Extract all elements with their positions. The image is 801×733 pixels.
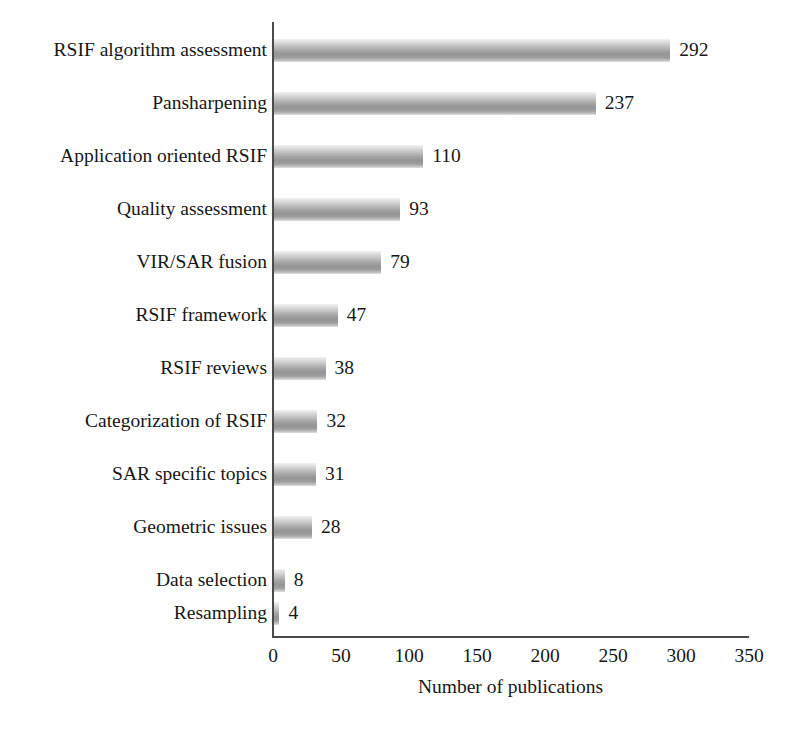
value-label: 8	[294, 565, 304, 595]
bar-row: Quality assessment 93	[0, 198, 801, 221]
category-label: SAR specific topics	[7, 459, 267, 489]
x-tick-label: 150	[447, 642, 507, 670]
bar-row: RSIF algorithm assessment 292	[0, 39, 801, 62]
value-label: 93	[409, 194, 429, 224]
bar-row: Application oriented RSIF 110	[0, 145, 801, 168]
bar	[274, 463, 316, 486]
category-label: Quality assessment	[7, 194, 267, 224]
category-label: Geometric issues	[7, 512, 267, 542]
bar-row: Categorization of RSIF 32	[0, 410, 801, 433]
x-tick-label: 300	[651, 642, 711, 670]
x-tick-label: 200	[515, 642, 575, 670]
x-tick-label: 250	[583, 642, 643, 670]
value-label: 79	[390, 247, 410, 277]
bar	[274, 516, 312, 539]
category-label: Pansharpening	[7, 88, 267, 118]
bar-row: Resampling 4	[0, 602, 801, 625]
value-label: 28	[321, 512, 341, 542]
category-label: VIR/SAR fusion	[7, 247, 267, 277]
category-label: Categorization of RSIF	[7, 406, 267, 436]
value-label: 4	[288, 598, 298, 628]
bar	[274, 602, 279, 625]
value-label: 110	[432, 141, 461, 171]
category-label: RSIF framework	[7, 300, 267, 330]
x-tick-label: 350	[719, 642, 779, 670]
bar	[274, 304, 338, 327]
bar	[274, 198, 400, 221]
x-axis-line	[272, 636, 749, 638]
category-label: Data selection	[7, 565, 267, 595]
x-tick-label: 100	[379, 642, 439, 670]
bar	[274, 357, 326, 380]
category-label: Resampling	[7, 598, 267, 628]
value-label: 32	[326, 406, 346, 436]
value-label: 292	[679, 35, 708, 65]
bar	[274, 39, 670, 62]
bar-row: SAR specific topics 31	[0, 463, 801, 486]
bar	[274, 145, 423, 168]
x-tick-label: 50	[311, 642, 371, 670]
bar-row: Data selection 8	[0, 569, 801, 592]
value-label: 31	[325, 459, 345, 489]
bar	[274, 569, 285, 592]
bar-row: VIR/SAR fusion 79	[0, 251, 801, 274]
bar	[274, 251, 381, 274]
category-label: RSIF algorithm assessment	[7, 35, 267, 65]
category-label: RSIF reviews	[7, 353, 267, 383]
value-label: 47	[347, 300, 367, 330]
bar-row: RSIF reviews 38	[0, 357, 801, 380]
bar-chart: RSIF algorithm assessment 292 Pansharpen…	[0, 0, 801, 733]
category-label: Application oriented RSIF	[7, 141, 267, 171]
x-tick-label: 0	[243, 642, 303, 670]
bar-row: Pansharpening 237	[0, 92, 801, 115]
bar	[274, 410, 317, 433]
value-label: 38	[335, 353, 355, 383]
bar-row: Geometric issues 28	[0, 516, 801, 539]
value-label: 237	[605, 88, 634, 118]
x-axis-title: Number of publications	[272, 676, 749, 698]
bar	[274, 92, 596, 115]
bar-row: RSIF framework 47	[0, 304, 801, 327]
